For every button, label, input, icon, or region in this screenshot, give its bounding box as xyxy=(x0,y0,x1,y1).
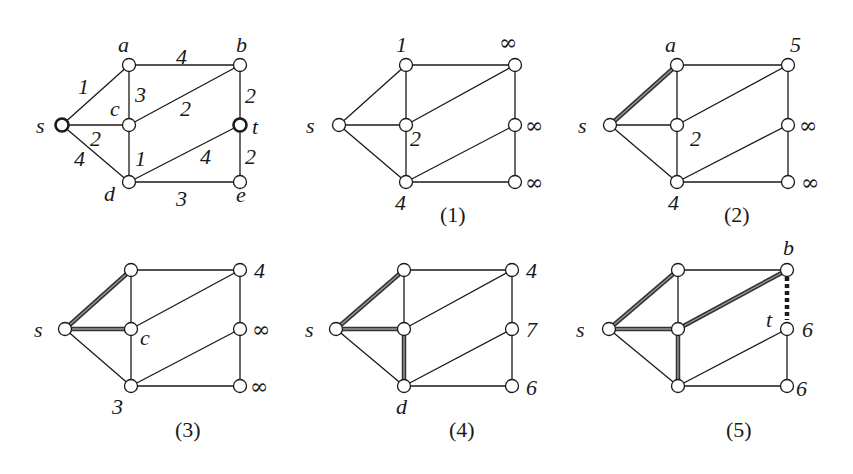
caption: (3) xyxy=(175,417,201,442)
node-c xyxy=(672,323,685,336)
panel-step-3: s c 3 4 ∞ ∞ (3) xyxy=(34,258,270,442)
dist-t: 6 xyxy=(802,317,813,342)
dist-e: ∞ xyxy=(525,170,543,195)
label-e: e xyxy=(236,182,246,207)
node-t xyxy=(509,119,522,132)
dist-e: 6 xyxy=(526,375,537,400)
dist-e: ∞ xyxy=(801,170,819,195)
panel-step-4: s d 4 7 6 (4) xyxy=(305,258,538,442)
node-s xyxy=(604,119,617,132)
node-b xyxy=(781,264,794,277)
panel-step-1: s 1 2 4 ∞ ∞ ∞ (1) xyxy=(306,30,543,227)
weight-c-b: 2 xyxy=(180,96,191,121)
node-d xyxy=(123,176,136,189)
label-s: s xyxy=(576,317,585,342)
label-t: t xyxy=(252,114,259,139)
caption: (2) xyxy=(724,202,750,227)
node-t xyxy=(782,119,795,132)
dist-b: 4 xyxy=(526,258,537,283)
weight-c-d: 1 xyxy=(135,146,146,171)
node-b xyxy=(506,264,519,277)
weight-a-b: 4 xyxy=(176,44,187,69)
node-c xyxy=(125,323,138,336)
weight-a-c: 3 xyxy=(134,82,146,107)
label-a: a xyxy=(665,32,676,57)
node-s xyxy=(59,323,72,336)
node-e xyxy=(781,380,794,393)
dist-t: ∞ xyxy=(799,113,817,138)
node-s xyxy=(56,119,69,132)
node-c xyxy=(398,323,411,336)
node-d xyxy=(125,380,138,393)
node-d xyxy=(671,176,684,189)
panel-original-graph: s a c d b t e 1 2 4 4 3 2 1 2 4 2 3 xyxy=(36,32,259,211)
label-b: b xyxy=(236,32,247,57)
weight-s-d: 4 xyxy=(74,146,85,171)
caption: (5) xyxy=(726,417,752,442)
dist-b: 5 xyxy=(790,32,801,57)
node-b xyxy=(509,59,522,72)
label-d: d xyxy=(396,394,408,419)
dist-d: 4 xyxy=(668,190,679,215)
caption: (4) xyxy=(449,417,475,442)
node-t xyxy=(234,119,247,132)
dist-t: ∞ xyxy=(525,113,543,138)
label-c: c xyxy=(140,325,150,350)
weight-s-c: 2 xyxy=(90,126,101,151)
dist-a: 1 xyxy=(396,32,407,57)
label-a: a xyxy=(118,32,129,57)
node-e xyxy=(782,176,795,189)
node-b xyxy=(234,264,247,277)
label-s: s xyxy=(578,113,587,138)
weight-d-e: 3 xyxy=(175,186,187,211)
node-d xyxy=(398,380,411,393)
node-e xyxy=(509,176,522,189)
node-a xyxy=(398,264,411,277)
dist-b: ∞ xyxy=(499,30,517,55)
label-s: s xyxy=(34,317,43,342)
dist-c: 2 xyxy=(410,126,421,151)
node-s xyxy=(603,323,616,336)
node-a xyxy=(123,59,136,72)
dist-t: ∞ xyxy=(252,317,270,342)
node-a xyxy=(671,59,684,72)
dist-t: 7 xyxy=(526,317,538,342)
label-s: s xyxy=(306,113,315,138)
dist-b: 4 xyxy=(254,258,265,283)
node-a xyxy=(400,59,413,72)
node-b xyxy=(234,59,247,72)
node-s xyxy=(330,323,343,336)
node-e xyxy=(234,380,247,393)
node-a xyxy=(672,264,685,277)
dist-e: 6 xyxy=(796,376,807,401)
weight-d-t: 4 xyxy=(200,144,211,169)
dijkstra-diagram: s a c d b t e 1 2 4 4 3 2 1 2 4 2 3 xyxy=(0,0,853,474)
weight-t-e: 2 xyxy=(245,144,256,169)
label-s: s xyxy=(305,317,314,342)
node-a xyxy=(125,264,138,277)
label-t: t xyxy=(766,307,773,332)
panel-step-5: s b t 6 6 (5) xyxy=(576,235,813,442)
node-e xyxy=(506,380,519,393)
label-s: s xyxy=(36,113,45,138)
dist-d: 4 xyxy=(395,190,406,215)
node-t xyxy=(506,323,519,336)
dist-e: ∞ xyxy=(250,374,268,399)
node-c xyxy=(671,119,684,132)
node-t xyxy=(781,323,794,336)
node-d xyxy=(672,380,685,393)
node-b xyxy=(782,59,795,72)
label-c: c xyxy=(110,96,120,121)
node-c xyxy=(123,119,136,132)
weight-b-t: 2 xyxy=(245,83,256,108)
dist-c: 2 xyxy=(690,126,701,151)
label-b: b xyxy=(783,235,794,260)
dist-d: 3 xyxy=(111,394,123,419)
node-s xyxy=(333,119,346,132)
panel-step-2: s a 2 4 5 ∞ ∞ (2) xyxy=(578,32,819,227)
weight-s-a: 1 xyxy=(78,74,89,99)
label-d: d xyxy=(104,181,116,206)
node-d xyxy=(400,176,413,189)
node-t xyxy=(234,323,247,336)
caption: (1) xyxy=(440,202,466,227)
